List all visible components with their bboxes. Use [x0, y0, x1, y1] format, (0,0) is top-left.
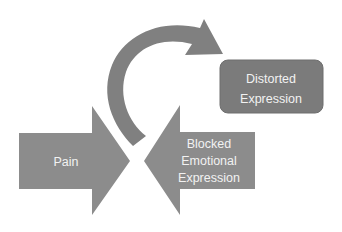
distorted-label-line2: Expression — [240, 92, 302, 106]
diagram-canvas: Pain Blocked Emotional Expression Distor… — [0, 0, 342, 232]
blocked-expression-arrow: Blocked Emotional Expression — [144, 105, 255, 215]
blocked-label-line3: Expression — [178, 171, 240, 185]
pain-arrow: Pain — [19, 106, 130, 215]
blocked-label-line1: Blocked — [187, 137, 232, 151]
pain-label: Pain — [53, 155, 78, 169]
distorted-expression-box: Distorted Expression — [220, 60, 323, 113]
curved-arrow-body — [107, 19, 223, 146]
blocked-label-line2: Emotional — [181, 154, 237, 168]
distorted-label-line1: Distorted — [246, 72, 296, 86]
curved-arrow — [107, 19, 223, 146]
